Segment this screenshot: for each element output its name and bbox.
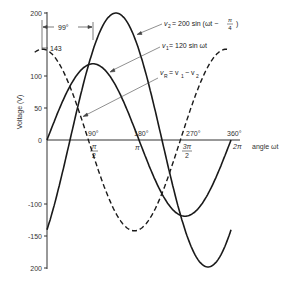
xtick-270-rad-den: 2 xyxy=(185,152,189,159)
v2-expression: = 200 sin (ωt − xyxy=(172,20,218,28)
v2-subscript: 2 xyxy=(168,23,171,29)
v2-frac-denominator: 4 xyxy=(228,25,232,31)
v1-expression: = 120 sin ωt xyxy=(169,42,207,49)
vr-minus-v2: − v xyxy=(185,69,195,76)
vr-v1-subscript: 1 xyxy=(181,73,184,79)
leader-lines xyxy=(83,24,162,117)
v1-equation-label: v 1 = 120 sin ωt xyxy=(162,42,207,51)
xtick-360-rad: 2π xyxy=(232,143,242,150)
ytick-minus-100: -100 xyxy=(28,201,42,208)
v2-close-paren: ) xyxy=(236,20,238,28)
v2-frac-numerator: π xyxy=(228,17,233,23)
vr-v2-subscript: 2 xyxy=(196,73,199,79)
vr-equation-label: v R = v 1 − v 2 xyxy=(160,69,199,79)
axes xyxy=(44,12,240,269)
phasor-waveform-chart: 200 100 50 0 -100 -150 200 Voltage (V) 9… xyxy=(0,0,295,288)
ytick-minus-150: -150 xyxy=(28,233,42,240)
v2-equation-label: v 2 = 200 sin (ωt − π 4 ) xyxy=(164,17,238,31)
ytick-200: 200 xyxy=(30,10,42,17)
xtick-90-deg: 90° xyxy=(88,130,99,137)
ytick-50: 50 xyxy=(34,105,42,112)
xtick-360-deg: 360° xyxy=(227,130,242,137)
xtick-270-rad-num: 3π xyxy=(183,143,192,150)
ytick-minus-200: 200 xyxy=(30,265,42,272)
x-tick-labels-degrees: 90° 180° 270° 360° xyxy=(88,130,242,137)
vr-subscript: R xyxy=(164,73,168,79)
peak-143-label: 143 xyxy=(50,45,62,52)
phase-difference-label: 99° xyxy=(58,24,69,31)
x-axis-title: angle ωt xyxy=(252,143,279,151)
ytick-0: 0 xyxy=(38,137,42,144)
ytick-100: 100 xyxy=(30,73,42,80)
xtick-270-deg: 270° xyxy=(186,130,201,137)
xtick-180-rad: π xyxy=(135,144,140,151)
xtick-90-rad-num: π xyxy=(92,143,97,150)
y-tick-labels: 200 100 50 0 -100 -150 200 xyxy=(28,10,42,272)
y-axis-title: Voltage (V) xyxy=(16,95,24,130)
vr-equals-v1: = v xyxy=(169,69,179,76)
